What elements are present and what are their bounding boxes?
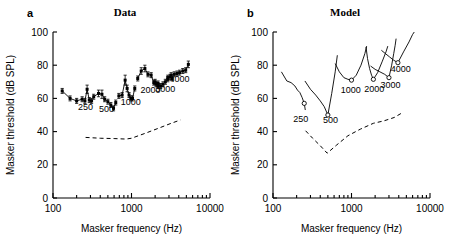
x-axis-title: Masker frequency (Hz) bbox=[81, 223, 182, 234]
data-point-marker bbox=[124, 79, 127, 82]
y-tick-label: 0 bbox=[262, 193, 268, 204]
data-point-marker bbox=[146, 73, 149, 76]
data-point-marker bbox=[114, 101, 117, 104]
curve-label-1000: 1000 bbox=[121, 97, 141, 107]
y-tick-label: 100 bbox=[251, 27, 268, 38]
tuning-curve-1000 bbox=[335, 46, 366, 80]
y-tick-label: 60 bbox=[37, 93, 49, 104]
data-point-marker bbox=[187, 63, 190, 66]
y-tick-label: 40 bbox=[37, 126, 49, 137]
data-point-marker bbox=[100, 93, 103, 96]
x-tick-label: 1000 bbox=[120, 203, 143, 214]
data-point-marker bbox=[126, 87, 129, 90]
y-axis-title: Masker threshold (dB SPL) bbox=[5, 55, 16, 175]
tip-marker-3000 bbox=[387, 76, 391, 80]
data-point-marker bbox=[61, 89, 64, 92]
data-point-marker bbox=[81, 98, 84, 101]
data-point-marker bbox=[181, 70, 184, 73]
y-tick-label: 40 bbox=[257, 126, 269, 137]
data-point-marker bbox=[184, 69, 187, 72]
y-tick-label: 100 bbox=[31, 27, 48, 38]
panel-a-data: a Data 020406080100100100010000Masker fr… bbox=[0, 0, 224, 250]
tuning-curve-4000 bbox=[381, 32, 414, 63]
y-axis-title: Masker threshold (dB SPL) bbox=[230, 55, 241, 175]
curve-label-250: 250 bbox=[293, 114, 308, 124]
curve-label-3000: 3000 bbox=[381, 80, 401, 90]
plot-area-model: 020406080100100100010000Masker frequency… bbox=[225, 0, 449, 250]
curve-label-3000: 3000 bbox=[155, 84, 175, 94]
x-tick-label: 10000 bbox=[196, 203, 224, 214]
data-point-marker bbox=[150, 74, 153, 77]
y-tick-label: 80 bbox=[257, 60, 269, 71]
curve-label-1000: 1000 bbox=[341, 85, 361, 95]
tip-marker-250 bbox=[302, 101, 306, 105]
curve-label-500: 500 bbox=[99, 104, 114, 114]
data-point-marker bbox=[103, 98, 106, 101]
data-point-marker bbox=[97, 92, 100, 95]
x-tick-label: 10000 bbox=[416, 203, 444, 214]
data-point-marker bbox=[92, 95, 95, 98]
data-point-marker bbox=[143, 67, 146, 70]
absolute-threshold-curve bbox=[306, 113, 402, 153]
data-point-marker bbox=[69, 97, 72, 100]
plot-area-data: 020406080100100100010000Masker frequency… bbox=[0, 0, 224, 250]
x-tick-label: 1000 bbox=[340, 203, 363, 214]
data-point-marker bbox=[86, 88, 89, 91]
y-tick-label: 60 bbox=[257, 93, 269, 104]
y-tick-label: 20 bbox=[257, 159, 269, 170]
x-tick-label: 100 bbox=[265, 203, 282, 214]
data-point-marker bbox=[136, 77, 139, 80]
data-point-marker bbox=[140, 70, 143, 73]
tip-marker-2000 bbox=[371, 77, 375, 81]
x-axis-title: Masker frequency (Hz) bbox=[301, 223, 402, 234]
x-tick-label: 100 bbox=[45, 203, 62, 214]
data-point-marker bbox=[133, 87, 136, 90]
curve-label-500: 500 bbox=[323, 115, 338, 125]
tip-marker-1000 bbox=[349, 78, 353, 82]
curve-label-250: 250 bbox=[78, 102, 93, 112]
y-tick-label: 20 bbox=[37, 159, 49, 170]
curve-label-4000: 4000 bbox=[170, 74, 190, 84]
absolute-threshold-curve bbox=[86, 120, 181, 139]
y-tick-label: 0 bbox=[42, 193, 48, 204]
y-tick-label: 80 bbox=[37, 60, 49, 71]
curve-label-4000: 4000 bbox=[391, 64, 411, 74]
panel-b-model: b Model 020406080100100100010000Masker f… bbox=[225, 0, 449, 250]
tuning-curve-500 bbox=[305, 55, 337, 115]
tuning-curve-250 bbox=[281, 72, 305, 110]
